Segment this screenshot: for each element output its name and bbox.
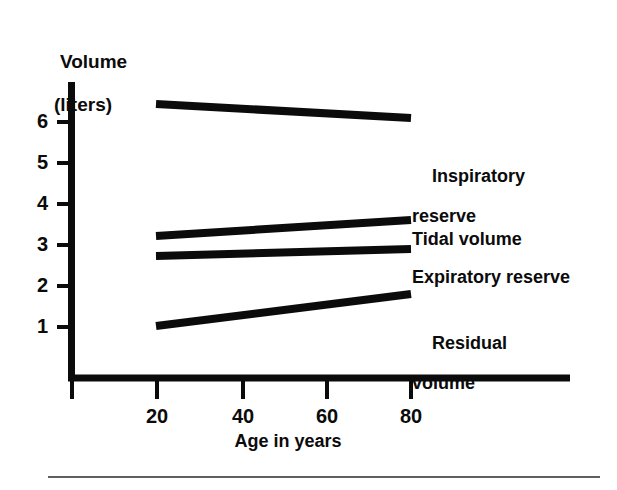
y-axis-title-line1: Volume — [60, 51, 127, 72]
y-tick-label-6: 6 — [22, 110, 48, 132]
y-tick-label-2: 2 — [22, 274, 48, 296]
y-tick-label-5: 5 — [22, 151, 48, 173]
x-tick-label-40: 40 — [223, 405, 263, 427]
data-series-group — [156, 104, 411, 326]
series-line-tidal-volume — [156, 220, 411, 236]
series-label-tidal-volume: Tidal volume — [412, 229, 522, 249]
series-label-inspiratory-reserve-line1: Inspiratory — [432, 166, 525, 186]
respiratory-volume-chart-figure: Volume (liters) 6 5 4 3 2 1 20 40 60 80 … — [0, 0, 617, 490]
series-line-inspiratory-reserve — [156, 104, 411, 118]
series-label-expiratory-reserve: Expiratory reserve — [412, 267, 570, 287]
x-axis-title: Age in years — [188, 431, 388, 451]
y-tick-label-3: 3 — [22, 233, 48, 255]
y-tick-label-4: 4 — [22, 192, 48, 214]
series-line-expiratory-reserve — [156, 249, 411, 256]
series-label-inspiratory-reserve-line2: reserve — [412, 206, 525, 226]
series-label-residual-volume-line2: volume — [412, 373, 507, 393]
series-label-residual-volume: Residual volume — [412, 313, 507, 434]
x-tick-label-60: 60 — [307, 405, 347, 427]
y-axis-title: Volume (liters) — [28, 30, 138, 158]
series-label-residual-volume-line1: Residual — [432, 333, 507, 353]
x-tick-label-20: 20 — [137, 405, 177, 427]
series-line-residual-volume — [156, 294, 411, 326]
y-tick-label-1: 1 — [22, 315, 48, 337]
